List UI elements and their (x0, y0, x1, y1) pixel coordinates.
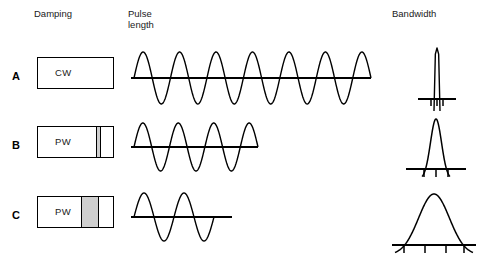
bandwidth-curve-c (0, 0, 480, 258)
damping-pulse-bandwidth-figure: Damping Pulse length Bandwidth A B C CWP… (0, 0, 480, 258)
